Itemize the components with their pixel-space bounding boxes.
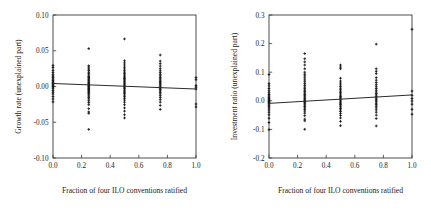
y-axis-title: Investment ratio (unexplained part) bbox=[230, 32, 239, 140]
x-tick-label-1: 0.2 bbox=[77, 162, 86, 170]
chart-panel-investment-ratio: 0.00.20.40.60.81.0-0.2-0.10.00.10.20.3In… bbox=[216, 0, 431, 213]
x-tick-label-3: 0.6 bbox=[350, 162, 359, 170]
y-tick-label-5: 0.3 bbox=[256, 12, 265, 20]
x-axis-title: Fraction of four ILO conventions ratifie… bbox=[62, 186, 187, 195]
y-tick-label-2: 0.00 bbox=[36, 83, 49, 91]
y-tick-label-2: 0.0 bbox=[256, 97, 265, 105]
chart-panel-growth-rate: 0.00.20.40.60.81.0-0.10-0.050.000.050.10… bbox=[0, 0, 215, 213]
y-tick-label-0: -0.2 bbox=[253, 155, 265, 163]
two-panel-scatter-figure: 0.00.20.40.60.81.0-0.10-0.050.000.050.10… bbox=[0, 0, 431, 213]
x-tick-label-3: 0.6 bbox=[134, 162, 143, 170]
y-tick-label-0: -0.10 bbox=[34, 155, 49, 163]
x-tick-label-2: 0.4 bbox=[106, 162, 115, 170]
x-tick-label-1: 0.2 bbox=[293, 162, 302, 170]
x-tick-label-0: 0.0 bbox=[49, 162, 58, 170]
y-tick-label-4: 0.2 bbox=[256, 40, 265, 48]
x-tick-label-5: 1.0 bbox=[408, 162, 417, 170]
x-tick-label-5: 1.0 bbox=[192, 162, 201, 170]
y-tick-label-3: 0.1 bbox=[256, 69, 265, 77]
y-tick-label-1: -0.05 bbox=[34, 119, 49, 127]
data-points bbox=[268, 28, 414, 131]
x-tick-label-4: 0.8 bbox=[379, 162, 388, 170]
x-tick-label-4: 0.8 bbox=[163, 162, 172, 170]
growth-rate-scatter-plot: 0.00.20.40.60.81.0-0.10-0.050.000.050.10… bbox=[0, 0, 215, 213]
investment-ratio-scatter-plot: 0.00.20.40.60.81.0-0.2-0.10.00.10.20.3In… bbox=[216, 0, 431, 213]
y-axis-title: Growth rate (unexplained part) bbox=[14, 39, 23, 134]
x-axis-title: Fraction of four ILO conventions ratifie… bbox=[278, 186, 403, 195]
x-tick-label-2: 0.4 bbox=[322, 162, 331, 170]
y-tick-label-1: -0.1 bbox=[253, 126, 265, 134]
y-tick-label-3: 0.05 bbox=[36, 47, 49, 55]
x-tick-label-0: 0.0 bbox=[265, 162, 274, 170]
y-tick-label-4: 0.10 bbox=[36, 12, 49, 20]
